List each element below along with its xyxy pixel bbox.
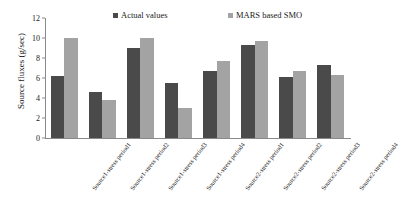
y-axis-tick: 6 bbox=[28, 74, 45, 83]
bar bbox=[279, 77, 293, 139]
y-axis-tick: 2 bbox=[28, 114, 45, 123]
y-axis-tick-label: 12 bbox=[28, 14, 40, 23]
x-axis-tick-label: Source2-stress period4 bbox=[357, 141, 398, 191]
bar bbox=[89, 92, 103, 138]
bar bbox=[127, 48, 141, 139]
y-axis-tick-label: 10 bbox=[28, 34, 40, 43]
y-axis-tick: 12 bbox=[28, 14, 45, 23]
x-axis-tick-label: Source1-stress period1 bbox=[91, 141, 132, 191]
y-axis-tick-label: 6 bbox=[28, 74, 40, 83]
y-axis-title: Source fluxes (g/sec) bbox=[16, 11, 26, 131]
x-axis-tick-label: Source1-stress period3 bbox=[167, 141, 208, 191]
bars-layer bbox=[45, 18, 350, 138]
bar bbox=[165, 83, 179, 139]
bar bbox=[64, 38, 78, 138]
x-axis-tick-label: Source1-stress period2 bbox=[129, 141, 170, 191]
y-axis-tick-label: 0 bbox=[28, 134, 40, 143]
x-axis-labels: Source1-stress period1Source1-stress per… bbox=[45, 139, 350, 200]
bar bbox=[102, 100, 116, 138]
y-axis-tick: 4 bbox=[28, 94, 45, 103]
bar bbox=[293, 71, 307, 139]
y-axis-tick: 0 bbox=[28, 134, 45, 143]
plot-area: 024681012 bbox=[45, 18, 350, 138]
y-axis-tick-label: 8 bbox=[28, 54, 40, 63]
bar bbox=[255, 41, 269, 138]
y-axis-tick-label: 2 bbox=[28, 114, 40, 123]
bar bbox=[217, 61, 231, 138]
bar bbox=[51, 76, 65, 138]
bar bbox=[331, 75, 345, 138]
y-axis-tick-label: 4 bbox=[28, 94, 40, 103]
x-axis-tick-label: Source2-stress period1 bbox=[243, 141, 284, 191]
y-axis-tick: 10 bbox=[28, 34, 45, 43]
x-axis-tick-label: Source2-stress period2 bbox=[281, 141, 322, 191]
legend-swatch-icon bbox=[228, 13, 233, 18]
x-axis-tick-label: Source1-stress period4 bbox=[205, 141, 246, 191]
bar bbox=[178, 108, 192, 138]
y-axis-tick: 8 bbox=[28, 54, 45, 63]
x-axis-tick-label: Source2-stress period3 bbox=[319, 141, 360, 191]
bar bbox=[317, 65, 331, 138]
bar bbox=[241, 45, 255, 139]
bar bbox=[140, 38, 154, 138]
legend-swatch-icon bbox=[113, 13, 118, 18]
bar bbox=[203, 71, 217, 138]
